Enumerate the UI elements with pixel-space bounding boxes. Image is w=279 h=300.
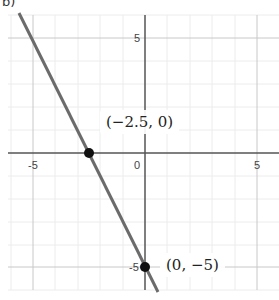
point-y-intercept [140,262,150,272]
tick-x-neg5: -5 [28,159,38,171]
x-intercept-label: (−2.5, 0) [100,110,179,134]
tick-x-0: 0 [134,159,140,171]
tick-y-neg5: -5 [129,261,139,273]
point-x-intercept [84,148,94,158]
tick-y-5: 5 [134,32,140,44]
graph-canvas: -5 0 5 5 -5 [0,0,279,300]
y-intercept-label: (0, −5) [160,253,225,277]
tick-x-5: 5 [254,159,260,171]
axes [8,15,279,290]
